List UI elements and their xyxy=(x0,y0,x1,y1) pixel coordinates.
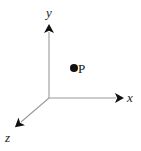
point-marker-dot xyxy=(70,64,78,72)
point-label: P xyxy=(78,62,85,75)
z-axis-line xyxy=(21,98,49,122)
x-axis-label: x xyxy=(127,91,133,104)
coordinate-axes-figure: y x z P xyxy=(0,0,141,151)
z-axis-label: z xyxy=(5,131,10,144)
y-axis-label: y xyxy=(46,6,52,19)
axes-drawing xyxy=(0,0,141,151)
point-p: P xyxy=(70,61,85,74)
